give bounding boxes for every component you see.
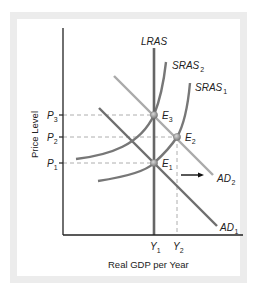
- guide-lines: [63, 115, 177, 235]
- ad1-curve: [99, 108, 217, 226]
- sras2-label: SRAS2: [172, 60, 204, 73]
- e1-point: [150, 159, 157, 166]
- ad2-label: AD2: [216, 173, 235, 186]
- p1-label: P1: [47, 158, 58, 171]
- e3-point: [150, 111, 157, 118]
- sras1-label: SRAS1: [195, 82, 227, 95]
- x-axis-title: Real GDP per Year: [108, 259, 189, 270]
- e2-label: E2: [185, 132, 196, 145]
- shift-right-arrow-icon: [181, 173, 204, 178]
- e1-label: E1: [162, 158, 173, 171]
- y1-label: Y1: [150, 241, 161, 254]
- p2-label: P2: [47, 132, 58, 145]
- y2-label: Y2: [173, 241, 184, 254]
- ad1-label: AD1: [219, 222, 238, 235]
- e2-point: [173, 133, 180, 140]
- p3-label: P3: [47, 110, 58, 123]
- sras2-curve: [76, 62, 166, 159]
- as-ad-diagram: LRAS SRAS2 SRAS1 AD2 AD1 E3 E2 E1 P3 P2 …: [0, 0, 258, 294]
- lras-label: LRAS: [141, 36, 167, 47]
- y-axis-title: Price Level: [29, 111, 40, 158]
- e3-label: E3: [162, 110, 173, 123]
